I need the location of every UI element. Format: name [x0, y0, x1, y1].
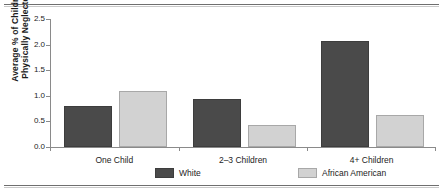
y-tick-label: 2.5	[34, 14, 45, 23]
legend-item-white[interactable]: White	[155, 168, 201, 178]
bar-african-american-2	[376, 115, 424, 147]
y-axis-title-line-2: Physically Neglected	[20, 0, 30, 79]
y-tick-label: 1.5	[34, 65, 45, 74]
bar-white-1	[193, 99, 241, 147]
x-category-label-2: 4+ Children	[350, 155, 394, 165]
top-hairline-rule	[4, 6, 439, 7]
y-axis-line	[50, 19, 51, 147]
legend-label: African American	[322, 168, 386, 178]
y-tick-mark	[46, 19, 50, 20]
x-category-label-1: 2–3 Children	[219, 155, 267, 165]
x-tick-mark	[307, 147, 308, 151]
y-tick-mark	[46, 96, 50, 97]
x-axis-line	[50, 147, 436, 148]
x-tick-mark	[50, 147, 51, 151]
legend-swatch-icon	[155, 168, 174, 178]
y-axis-title: Average % of Children Physically Neglect…	[3, 0, 37, 103]
bar-white-2	[321, 41, 369, 147]
bottom-hairline-rule	[4, 187, 439, 188]
x-category-label-0: One Child	[95, 155, 133, 165]
y-tick-label: 2.0	[34, 40, 45, 49]
legend-swatch-icon	[298, 168, 317, 178]
bar-white-0	[64, 106, 112, 147]
y-axis-title-line-1: Average % of Children	[10, 0, 20, 82]
legend-item-african-american[interactable]: African American	[298, 168, 386, 178]
y-tick-label: 0.5	[34, 116, 45, 125]
legend-label: White	[179, 168, 201, 178]
y-tick-label: 0.0	[34, 142, 45, 151]
bar-african-american-0	[119, 91, 167, 147]
y-tick-mark	[46, 121, 50, 122]
bottom-rule	[4, 185, 439, 186]
figure-container: Average % of Children Physically Neglect…	[0, 0, 443, 196]
x-tick-mark	[179, 147, 180, 151]
top-rule	[4, 4, 439, 5]
y-tick-mark	[46, 45, 50, 46]
plot-area: 0.00.51.01.52.02.5 One Child2–3 Children…	[50, 19, 436, 147]
chart-legend: WhiteAfrican American	[50, 168, 436, 180]
y-tick-label: 1.0	[34, 91, 45, 100]
bar-african-american-1	[248, 125, 296, 147]
y-tick-mark	[46, 70, 50, 71]
x-tick-mark	[435, 147, 436, 151]
